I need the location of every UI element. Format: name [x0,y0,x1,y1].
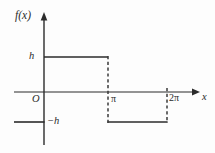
x-tick-label-pi: π [111,94,116,104]
y-tick-label-h: h [29,51,34,62]
x-tick-label-2pi: 2π [169,93,179,103]
y-tick-label-negative-h: −h [47,116,59,127]
y-axis-label: f(x) [15,10,31,22]
graph-canvas [0,0,215,153]
x-axis-label: x [202,92,207,103]
function-graph-figure: f(x) h O −h π 2π x [0,0,215,153]
origin-label: O [32,94,40,105]
